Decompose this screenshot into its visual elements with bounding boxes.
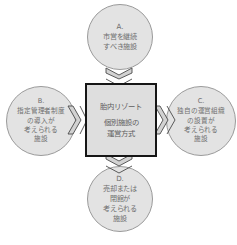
- node-a-label: A.: [117, 22, 124, 32]
- node-c-line2: の設置が: [187, 117, 215, 126]
- node-circle-d[interactable]: D. 売却または 閉館が 考えられる 施設: [87, 166, 153, 232]
- node-b-label: B.: [38, 97, 44, 106]
- node-circle-a[interactable]: A. 市営を継続 すべき施設: [87, 4, 153, 70]
- node-circle-c[interactable]: C. 独自の運営組織 の設置が 考えられる 施設: [166, 86, 236, 156]
- node-a-line1: 市営を継続: [103, 32, 138, 42]
- node-b-line4: 施設: [34, 135, 48, 144]
- node-a-line2: すべき施設: [103, 42, 138, 52]
- center-box-subtitle-line2: 運営方式: [107, 128, 135, 139]
- node-c-line1: 独自の運営組織: [177, 107, 225, 116]
- double-arrow-vertical-icon: [104, 154, 134, 174]
- node-d-line2: 閉館が: [110, 194, 131, 204]
- node-b-line1: 指定管理者制度: [17, 107, 65, 116]
- caption-strip: [0, 234, 237, 245]
- center-box[interactable]: 胎内リゾート 個別施設の 運営方式: [85, 83, 157, 157]
- center-box-title: 胎内リゾート: [100, 101, 142, 112]
- double-arrow-horizontal-icon: [155, 104, 176, 136]
- node-b-line3: 考えられる: [24, 126, 59, 135]
- center-box-subtitle-line1: 個別施設の: [104, 117, 139, 128]
- node-d-line3: 考えられる: [103, 204, 138, 214]
- node-d-line1: 売却または: [103, 184, 138, 194]
- node-d-label: D.: [116, 174, 124, 184]
- diagram-canvas: A. 市営を継続 すべき施設 B. 指定管理者制度 の導入が 考えられる 施設 …: [0, 0, 237, 245]
- node-c-line4: 施設: [194, 135, 208, 144]
- node-d-line4: 施設: [113, 214, 127, 224]
- node-c-label: C.: [198, 97, 205, 106]
- double-arrow-horizontal-icon: [66, 104, 87, 136]
- node-c-line3: 考えられる: [184, 126, 219, 135]
- node-b-line2: の導入が: [27, 117, 55, 126]
